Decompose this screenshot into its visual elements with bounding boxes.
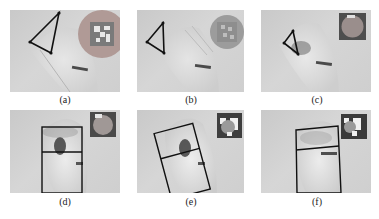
caption-d: (d)	[10, 196, 120, 208]
aruco-marker-icon	[90, 22, 114, 46]
figure-panel-f	[261, 110, 371, 193]
hand-photo	[10, 10, 120, 92]
marker-icon	[90, 112, 116, 137]
caption-f: (f)	[262, 196, 372, 208]
figure-panel-d	[10, 110, 120, 193]
hand-photo	[261, 110, 371, 193]
aruco-marker-icon	[217, 113, 242, 138]
aruco-marker-icon	[341, 114, 367, 139]
caption-c: (c)	[262, 94, 372, 106]
hand-photo	[261, 10, 371, 92]
hand-photo	[137, 110, 244, 193]
figure-panel-c	[261, 10, 371, 92]
caption-e: (e)	[136, 196, 246, 208]
caption-b: (b)	[136, 94, 246, 106]
figure-panel-b	[137, 10, 244, 92]
hand-photo	[10, 110, 120, 193]
marker-icon	[339, 13, 366, 40]
figure-panel-a	[10, 10, 120, 92]
aruco-marker-icon	[217, 22, 237, 42]
caption-a: (a)	[10, 94, 120, 106]
hand-photo	[137, 10, 244, 92]
figure-panel-e	[137, 110, 244, 193]
